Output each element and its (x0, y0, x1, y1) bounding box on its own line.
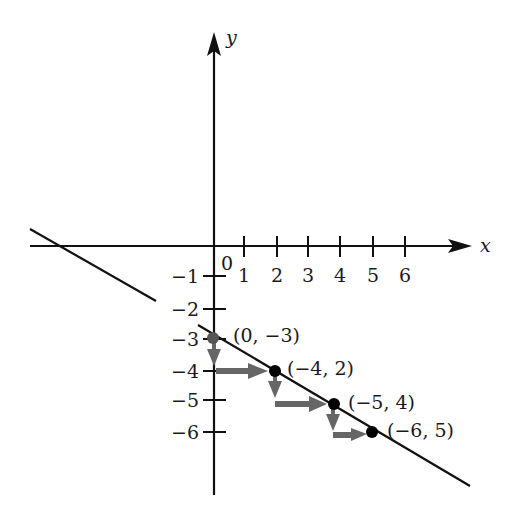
point-label: (−6, 5) (387, 419, 454, 441)
step-arrows (207, 341, 367, 441)
y-tick-labels: −1 −2 −3 −4 −5 −6 (171, 265, 199, 443)
x-tick-label: 1 (238, 264, 250, 286)
point-0 (207, 332, 219, 344)
origin-label: 0 (221, 252, 233, 274)
y-axis-label: y (225, 26, 237, 48)
point-2 (328, 398, 340, 410)
data-points (207, 332, 378, 438)
point-labels: (0, −3) (−4, 2) (−5, 4) (−6, 5) (233, 324, 454, 441)
x-tick-label: 3 (302, 264, 314, 286)
x-tick-labels: 1 2 3 4 5 6 (238, 264, 411, 286)
right-arrow-icon (333, 428, 367, 441)
x-tick-label: 4 (334, 264, 346, 286)
point-label: (−4, 2) (287, 357, 354, 379)
coordinate-plane: y x 0 1 2 3 4 5 6 −1 −2 −3 −4 −5 −6 (0, 0, 518, 524)
point-1 (269, 365, 281, 377)
x-tick-label: 2 (271, 264, 283, 286)
point-label: (0, −3) (233, 324, 300, 346)
y-tick-label: −3 (171, 328, 199, 350)
x-tick-label: 5 (367, 264, 379, 286)
down-arrow-icon (326, 409, 340, 431)
y-tick-label: −6 (171, 421, 199, 443)
point-3 (366, 426, 378, 438)
y-tick-label: −5 (171, 389, 199, 411)
y-tick-label: −4 (171, 360, 199, 382)
y-tick-label: −2 (171, 298, 199, 320)
right-arrow-icon (216, 363, 268, 379)
x-axis (30, 236, 472, 257)
y-tick-label: −1 (171, 265, 199, 287)
down-arrow-icon (268, 376, 282, 398)
down-arrow-icon (207, 341, 221, 366)
x-tick-label: 6 (399, 264, 411, 286)
right-arrow-icon (275, 396, 327, 412)
x-axis-label: x (480, 234, 491, 256)
point-label: (−5, 4) (348, 391, 415, 413)
